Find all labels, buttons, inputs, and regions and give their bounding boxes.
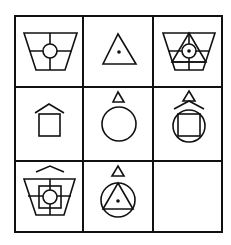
puzzle-drawing xyxy=(0,0,231,245)
cell-r3c1-trapezoid-roof-square-circle-icon xyxy=(24,166,75,215)
cell-r1c3-trapezoid-triangle-circle-dot-icon xyxy=(163,33,215,70)
cell-r1c1-trapezoid-circle-icon xyxy=(24,33,77,70)
cell-r2c2-circle-small-triangle-icon xyxy=(102,92,136,141)
cell-r3c2-circle-triangle-dot-small-triangle-icon xyxy=(101,166,135,217)
cell-r1c2-triangle-dot-icon xyxy=(103,34,136,64)
cell-r2c1-house-square-icon xyxy=(35,104,64,136)
figure-matrix-puzzle xyxy=(0,0,231,245)
cell-r2c3-circle-square-roof-triangle-icon xyxy=(173,91,205,142)
